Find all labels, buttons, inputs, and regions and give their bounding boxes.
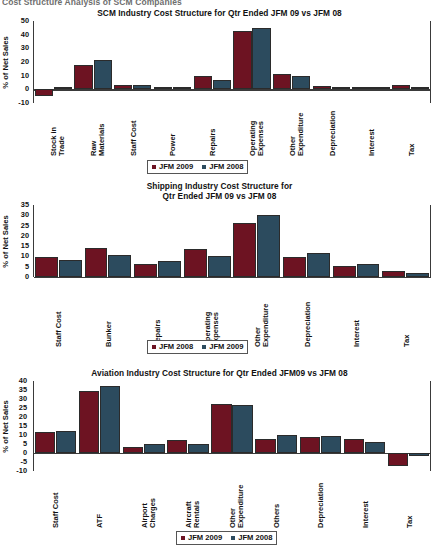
bar-series-2 — [213, 80, 231, 90]
x-tick-label: Repairs — [209, 100, 217, 156]
bar-group — [391, 21, 431, 103]
bar-series-1 — [333, 266, 356, 277]
legend-item: JFM 2008 — [231, 533, 272, 542]
bar-group — [332, 205, 382, 277]
bar-series-2 — [257, 215, 280, 277]
bar-series-1 — [300, 437, 320, 453]
bar-series-1 — [79, 391, 99, 453]
bar-series-2 — [357, 264, 380, 277]
y-tick-label: 30 — [19, 395, 27, 403]
bar-group — [153, 21, 193, 103]
y-tick-label: 5 — [25, 263, 29, 271]
y-tick-label: -5 — [20, 458, 27, 466]
bar-series-1 — [154, 87, 172, 89]
legend-swatch-icon — [202, 165, 206, 169]
bar-series-2 — [94, 60, 112, 89]
bar-series-2 — [188, 444, 208, 453]
bar-group — [193, 21, 233, 103]
chart-title-line1: Aviation Industry Cost Structure for Qtr… — [91, 368, 347, 378]
y-tick-label: 15 — [19, 422, 27, 430]
y-tick-label: 25 — [19, 404, 27, 412]
bar-group — [122, 381, 166, 471]
bar-series-2 — [56, 431, 76, 453]
bar-group — [34, 205, 84, 277]
x-tick-label: Interest — [362, 472, 370, 528]
y-tick-label: 0 — [25, 85, 29, 93]
legend-label: JFM 2008 — [209, 162, 243, 171]
bar-series-1 — [388, 453, 408, 466]
bar-series-2 — [100, 386, 120, 453]
x-tick-label: Repairs — [154, 291, 162, 347]
x-tick-label: Stock in Trade — [50, 100, 67, 156]
y-tick-label: 40 — [21, 31, 29, 39]
y-tick-label: 5 — [23, 440, 27, 448]
bar-series-1 — [392, 85, 410, 89]
y-tick-label: 20 — [19, 413, 27, 421]
legend-swatch-icon — [231, 536, 235, 540]
legend-label: JFM 2008 — [159, 342, 193, 351]
bar-group — [210, 381, 254, 471]
bar-series-2 — [365, 442, 385, 453]
bar-series-1 — [114, 85, 132, 89]
plot-area-scm: % of Net Sales -1001020304050 — [0, 21, 439, 103]
x-tick-label: Depreciation — [304, 291, 312, 347]
x-tick-label: Bunker — [105, 291, 113, 347]
bar-series-1 — [211, 404, 231, 453]
legend-label: JFM 2008 — [238, 533, 272, 542]
x-tick-label: Tax — [408, 100, 416, 156]
bar-group — [387, 381, 431, 471]
bar-series-2 — [59, 260, 82, 277]
chart-title-line2: Qtr Ended JFM 09 vs JFM 08 — [0, 191, 439, 201]
bar-series-scm — [34, 21, 431, 103]
x-tick-label: ATF — [96, 472, 104, 528]
y-tick-label: -10 — [18, 99, 29, 107]
chart-title-shipping: Shipping Industry Cost Structure for Qtr… — [0, 181, 439, 201]
bar-group — [282, 205, 332, 277]
x-tick-label: Staff Cost — [52, 472, 60, 528]
bar-series-1 — [344, 439, 364, 453]
y-tick-label: 20 — [21, 58, 29, 66]
bar-series-1 — [35, 89, 53, 96]
bar-series-2 — [371, 87, 389, 89]
y-tick-label: 25 — [21, 222, 29, 230]
bar-series-1 — [194, 76, 212, 89]
y-tick-label: 10 — [21, 72, 29, 80]
bar-series-2 — [54, 87, 72, 89]
axis-area-shipping — [33, 205, 431, 277]
bar-series-2 — [232, 405, 252, 453]
bar-group — [299, 381, 343, 471]
zero-line-shipping — [34, 277, 431, 278]
chart-scm-industry: SCM Industry Cost Structure for Qtr Ende… — [0, 8, 439, 103]
bar-series-1 — [184, 249, 207, 277]
bar-series-1 — [134, 264, 157, 277]
bar-group — [166, 381, 210, 471]
bar-series-2 — [144, 444, 164, 453]
y-tick-label: 0 — [23, 449, 27, 457]
axis-area-aviation — [33, 381, 431, 471]
bar-series-1 — [167, 440, 187, 453]
document-header: Cost Structure Analysis of SCM Companies — [2, 0, 302, 7]
bar-series-2 — [411, 87, 429, 90]
bar-series-1 — [255, 439, 275, 453]
chart-title-line1: SCM Industry Cost Structure for Qtr Ende… — [97, 8, 341, 18]
legend-label: JFM 2009 — [209, 342, 243, 351]
bar-series-1 — [233, 31, 251, 90]
legend-swatch-icon — [181, 536, 185, 540]
bar-group — [312, 21, 352, 103]
bar-series-2 — [252, 28, 270, 90]
legend-item: JFM 2009 — [152, 162, 193, 171]
y-tick-label: 40 — [19, 377, 27, 385]
legend-scm: JFM 2009JFM 2008 — [147, 160, 248, 174]
y-tick-label: 35 — [21, 201, 29, 209]
bar-series-2 — [409, 453, 429, 456]
cost-structure-analysis-page: Cost Structure Analysis of SCM Companies… — [0, 0, 439, 545]
bar-group — [255, 381, 299, 471]
bar-group — [84, 205, 134, 277]
y-tick-label: 20 — [21, 232, 29, 240]
bar-series-2 — [406, 273, 429, 277]
chart-aviation-industry: Aviation Industry Cost Structure for Qtr… — [0, 368, 439, 471]
chart-title-line1: Shipping Industry Cost Structure for — [147, 181, 293, 191]
legend-item: JFM 2009 — [181, 533, 222, 542]
legend-swatch-icon — [152, 165, 156, 169]
x-tick-label: Airport Charges — [141, 472, 158, 528]
